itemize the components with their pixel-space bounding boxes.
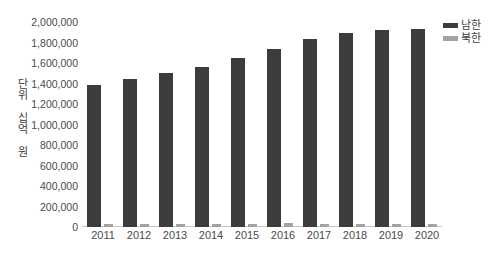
x-axis-tick-labels: 2011201220132014201520162017201820192020 <box>82 229 442 249</box>
y-axis-tick-label: 1,000,000 <box>31 119 78 131</box>
y-axis-tick-label: 1,800,000 <box>31 37 78 49</box>
bar-south-korea[interactable] <box>87 85 101 227</box>
plot-area <box>82 22 442 227</box>
bar-group <box>159 22 190 227</box>
x-axis-tick-label: 2015 <box>235 229 259 241</box>
bar-group <box>267 22 298 227</box>
chart-legend: 남한북한 <box>443 20 497 46</box>
legend-swatch-icon <box>443 36 458 41</box>
legend-label: 북한 <box>461 33 481 44</box>
bar-south-korea[interactable] <box>267 49 281 227</box>
bar-north-korea[interactable] <box>104 224 113 227</box>
bar-north-korea[interactable] <box>356 224 365 227</box>
bar-group <box>87 22 118 227</box>
x-axis-tick-label: 2018 <box>343 229 367 241</box>
bar-north-korea[interactable] <box>176 224 185 227</box>
bar-north-korea[interactable] <box>428 224 437 227</box>
bar-south-korea[interactable] <box>195 67 209 227</box>
y-axis-tick-label: 800,000 <box>40 139 78 151</box>
legend-item[interactable]: 남한 <box>443 20 497 31</box>
legend-label: 남한 <box>461 20 481 31</box>
y-axis-tick-label: 600,000 <box>40 160 78 172</box>
bar-south-korea[interactable] <box>411 29 425 227</box>
legend-swatch-icon <box>443 23 458 28</box>
bar-group <box>123 22 154 227</box>
x-axis-tick-label: 2014 <box>199 229 223 241</box>
bar-south-korea[interactable] <box>123 79 137 227</box>
bar-north-korea[interactable] <box>284 223 293 227</box>
y-axis-tick-label: 1,400,000 <box>31 78 78 90</box>
bar-north-korea[interactable] <box>320 224 329 227</box>
x-axis-tick-label: 2013 <box>163 229 187 241</box>
x-axis-tick-label: 2016 <box>271 229 295 241</box>
bar-north-korea[interactable] <box>140 224 149 227</box>
x-axis-tick-label: 2017 <box>307 229 331 241</box>
x-axis-tick-label: 2011 <box>91 229 115 241</box>
bar-group <box>339 22 370 227</box>
bar-group <box>231 22 262 227</box>
bar-north-korea[interactable] <box>212 224 221 227</box>
bar-group <box>195 22 226 227</box>
bar-chart: 단위 십억 원 0200,000400,000600,000800,0001,0… <box>0 0 497 254</box>
bar-south-korea[interactable] <box>375 30 389 227</box>
y-axis-tick-label: 400,000 <box>40 180 78 192</box>
bar-group <box>303 22 334 227</box>
bar-south-korea[interactable] <box>339 33 353 227</box>
y-axis-tick-label: 200,000 <box>40 201 78 213</box>
bar-group <box>411 22 442 227</box>
y-axis-tick-label: 0 <box>72 221 78 233</box>
bar-south-korea[interactable] <box>231 58 245 227</box>
x-axis-tick-label: 2019 <box>379 229 403 241</box>
y-axis-tick-labels: 0200,000400,000600,000800,0001,000,0001,… <box>24 0 78 254</box>
x-axis-tick-label: 2012 <box>127 229 151 241</box>
y-axis-tick-label: 2,000,000 <box>31 16 78 28</box>
bar-north-korea[interactable] <box>248 224 257 227</box>
bar-south-korea[interactable] <box>303 39 317 227</box>
bar-group <box>375 22 406 227</box>
y-axis-tick-label: 1,200,000 <box>31 98 78 110</box>
bar-north-korea[interactable] <box>392 224 401 227</box>
y-axis-tick-label: 1,600,000 <box>31 57 78 69</box>
legend-item[interactable]: 북한 <box>443 33 497 44</box>
x-axis-tick-label: 2020 <box>415 229 439 241</box>
bar-south-korea[interactable] <box>159 73 173 227</box>
